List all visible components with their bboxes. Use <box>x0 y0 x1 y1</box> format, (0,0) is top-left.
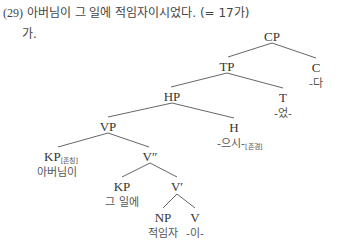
node-kp-subject-label: KP <box>44 149 61 164</box>
node-np: NP <box>155 210 172 225</box>
feature-kp-subject: [존칭] <box>61 157 79 165</box>
node-v-double-bar: V″ <box>143 149 158 164</box>
node-kp-object: KP <box>114 179 131 194</box>
edge-v1-np <box>163 194 177 208</box>
lex-h-morpheme: -으시- <box>217 137 245 150</box>
edge-v1-v <box>177 194 195 208</box>
edge-cp-c <box>272 43 316 58</box>
feature-h: [존경] <box>245 142 263 151</box>
lex-v: -이- <box>186 227 204 240</box>
edge-vp-kp <box>58 133 108 147</box>
lex-kp-object: 그 일에 <box>105 195 139 209</box>
node-t: T <box>279 90 287 105</box>
lex-t: -었- <box>274 107 292 120</box>
node-vp: VP <box>100 119 117 134</box>
edge-tp-t <box>227 73 283 88</box>
node-hp: HP <box>164 89 181 104</box>
lex-h: -으시-[존경] <box>217 137 263 151</box>
lex-kp-subject: 아버님이 <box>37 166 77 179</box>
node-c: C <box>312 60 321 75</box>
node-v: V <box>190 210 200 225</box>
edge-vp-v2 <box>108 133 149 147</box>
node-h: H <box>229 120 238 135</box>
node-cp: CP <box>264 29 280 44</box>
node-tp: TP <box>219 59 234 74</box>
node-kp-subject: KP[존칭] <box>44 149 78 165</box>
edge-v2-v1 <box>150 163 177 177</box>
lex-c: -다 <box>309 77 323 90</box>
edge-tp-hp <box>171 73 227 87</box>
edge-cp-tp <box>228 43 272 57</box>
lex-np: 적임자 <box>148 227 178 240</box>
edge-hp-vp <box>108 103 172 117</box>
edge-hp-h <box>172 103 234 118</box>
edge-v2-kp <box>122 163 150 177</box>
syntax-tree: CP TP C -다 HP T -었- VP H -으시-[존경] KP[존칭]… <box>0 0 340 248</box>
tree-edges <box>58 43 316 208</box>
node-v-bar: V′ <box>171 179 183 194</box>
